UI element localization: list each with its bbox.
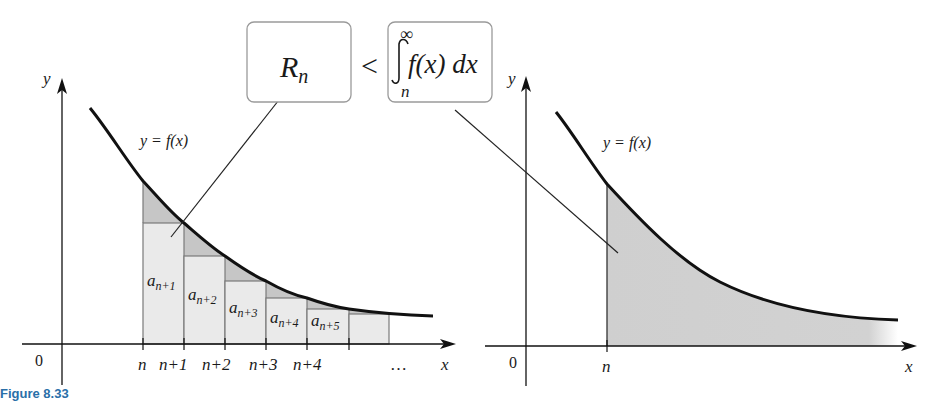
figure-caption: Figure 8.33	[0, 386, 69, 401]
right-x-label: x	[904, 357, 913, 376]
remainder-rectangles	[143, 223, 389, 344]
left-y-label: y	[41, 69, 51, 88]
right-origin-label: 0	[509, 354, 517, 371]
comparison-formula: Rn < ∞ n f(x) dx	[247, 22, 492, 102]
tick-label-n2: n+2	[202, 355, 231, 374]
ellipsis: …	[390, 355, 407, 374]
integral-lower-limit: n	[401, 82, 410, 101]
right-y-label: y	[506, 69, 516, 88]
tick-label-n4: n+4	[293, 355, 322, 374]
tick-label-n1: n+1	[159, 355, 187, 374]
tick-label-n3: n+3	[249, 355, 277, 374]
integral-upper-limit: ∞	[400, 24, 413, 44]
less-than-operator: <	[361, 49, 378, 82]
right-curve-label: y = f(x)	[601, 134, 651, 152]
integral-area	[607, 184, 898, 346]
left-origin-label: 0	[35, 352, 43, 369]
left-x-label: x	[440, 355, 449, 374]
leader-line-integral	[455, 110, 618, 253]
left-panel: y 0 x y = f(x) n n+1 n+2 n+3 n+4 … an+1 …	[22, 69, 456, 385]
rn-box	[247, 22, 351, 102]
right-tick-n: n	[602, 357, 611, 376]
left-curve-label: y = f(x)	[138, 132, 188, 150]
right-panel: y 0 x n y = f(x)	[455, 69, 917, 386]
integrand: f(x) dx	[408, 49, 478, 79]
rect-a-n6	[349, 314, 389, 344]
tick-label-n: n	[138, 355, 147, 374]
